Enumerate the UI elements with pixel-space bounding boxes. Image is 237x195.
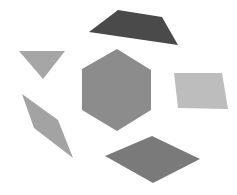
parallelogram-right-shape (174, 73, 228, 109)
triangle-left-shape (19, 51, 65, 79)
trapezoid-top-shape (89, 10, 178, 45)
shapes-canvas (0, 0, 237, 195)
rhombus-left-shape (22, 94, 73, 158)
rhombus-bottom-shape (105, 136, 200, 183)
hexagon-center-shape (82, 49, 151, 131)
